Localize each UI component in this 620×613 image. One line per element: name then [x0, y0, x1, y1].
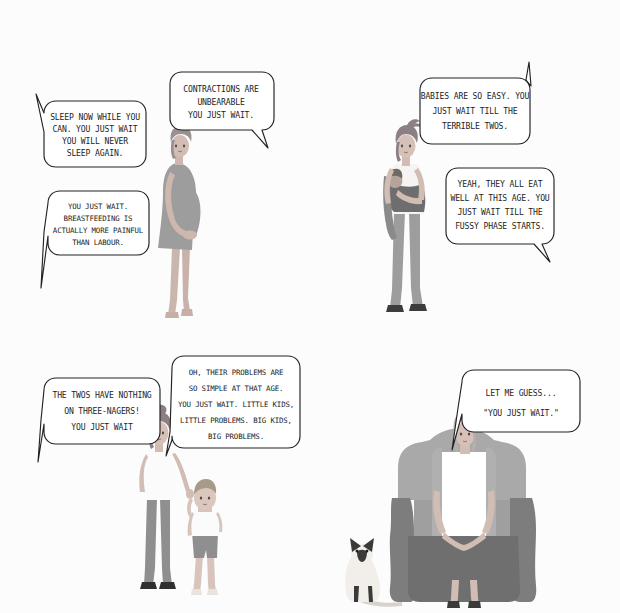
- bubble-line: LITTLE PROBLEMS. BIG KIDS,: [180, 416, 292, 425]
- bubble-line: BREASTFEEDING IS: [64, 214, 133, 223]
- bubble-line: JUST WAIT TILL THE: [457, 207, 542, 217]
- bubble-line: THAN LABOUR.: [72, 238, 124, 247]
- bubble-line: WELL AT THIS AGE. YOU: [450, 193, 549, 203]
- bubble-big-problems: OH, THEIR PROBLEMS ARE SO SIMPLE AT THAT…: [0, 340, 310, 613]
- bubble-line: YOU JUST WAIT.: [68, 202, 128, 211]
- bubble-line: YEAH, THEY ALL EAT: [457, 179, 542, 189]
- comic-strip: SLEEP NOW WHILE YOU CAN. YOU JUST WAIT Y…: [0, 0, 620, 613]
- bubble-let-me-guess: LET ME GUESS... "YOU JUST WAIT.": [310, 340, 620, 613]
- panel-grandmother: LET ME GUESS... "YOU JUST WAIT.": [310, 340, 620, 613]
- bubble-breastfeeding: YOU JUST WAIT. BREASTFEEDING IS ACTUALLY…: [0, 0, 310, 340]
- bubble-line: FUSSY PHASE STARTS.: [455, 221, 545, 231]
- bubble-line: OH, THEIR PROBLEMS ARE: [189, 368, 284, 377]
- bubble-line: YOU JUST WAIT. LITTLE KIDS,: [178, 400, 294, 409]
- bubble-line: ACTUALLY MORE PAINFUL: [53, 226, 144, 235]
- panel-pregnancy: SLEEP NOW WHILE YOU CAN. YOU JUST WAIT Y…: [0, 0, 310, 340]
- bubble-line: LET ME GUESS...: [486, 388, 557, 398]
- bubble-line: BIG PROBLEMS.: [208, 432, 264, 441]
- bubble-fussy-phase: YEAH, THEY ALL EAT WELL AT THIS AGE. YOU…: [310, 0, 620, 340]
- bubble-line: SO SIMPLE AT THAT AGE.: [189, 384, 284, 393]
- panel-baby: BABIES ARE SO EASY. YOU JUST WAIT TILL T…: [310, 0, 620, 340]
- bubble-line: "YOU JUST WAIT.": [483, 408, 559, 418]
- panel-toddler: THE TWOS HAVE NOTHING ON THREE-NAGERS! Y…: [0, 340, 310, 613]
